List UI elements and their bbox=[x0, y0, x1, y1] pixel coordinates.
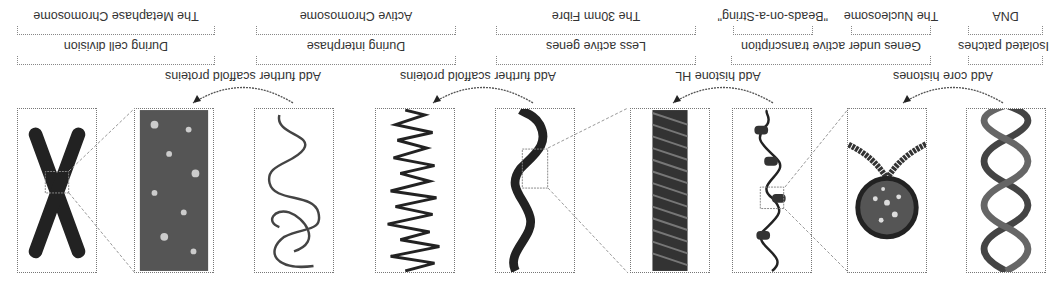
panel-nucleosome bbox=[847, 108, 927, 273]
panel-dna bbox=[966, 108, 1046, 273]
dna-double-helix-icon bbox=[967, 109, 1045, 272]
occurrence-cell-division: During cell division bbox=[17, 39, 215, 53]
panel-metaphase-chromosome bbox=[17, 108, 97, 273]
bracket-active bbox=[256, 26, 456, 35]
bracket-isolated bbox=[968, 56, 1043, 65]
x-chromosome-icon bbox=[18, 109, 96, 272]
nucleosome-icon bbox=[848, 109, 926, 272]
name-dna: DNA bbox=[968, 9, 1043, 23]
bracket-interphase bbox=[256, 56, 456, 65]
step-label-histone-hl: Add histone HL bbox=[663, 69, 773, 83]
occurrence-transcription: Genes under active transcription bbox=[731, 39, 931, 53]
beads-on-string-icon bbox=[733, 109, 811, 272]
step-label-scaffold-2: Add further scaffold proteins bbox=[158, 69, 328, 83]
panel-beads-on-a-string bbox=[732, 108, 812, 273]
panel-active-chromosome-loops bbox=[254, 108, 334, 273]
looped-chromatin-icon bbox=[255, 109, 333, 272]
name-beads: "Beads-on-a-String" bbox=[718, 9, 828, 23]
step-label-scaffold-1: Add further scaffold proteins bbox=[393, 69, 563, 83]
panel-metaphase-zoom bbox=[134, 108, 214, 273]
occurrence-less-active: Less active genes bbox=[496, 39, 696, 53]
bracket-beads bbox=[733, 26, 813, 35]
panel-active-chromosome-zigzag bbox=[375, 108, 455, 273]
name-active: Active Chromosome bbox=[256, 9, 456, 23]
occurrence-interphase: During interphase bbox=[256, 39, 456, 53]
zigzag-chromatin-icon bbox=[376, 109, 454, 272]
name-nucleosome: The Nucleosome bbox=[841, 9, 941, 23]
bracket-transcription bbox=[731, 56, 931, 65]
chromatin-packaging-figure: Add core histones Add histone HL Add fur… bbox=[0, 0, 1063, 297]
condensed-chromatin-icon bbox=[135, 109, 213, 272]
step-label-core-histones: Add core histones bbox=[878, 69, 1008, 83]
bracket-nucleosome bbox=[851, 26, 931, 35]
bracket-metaphase bbox=[17, 26, 215, 35]
coiled-fibre-icon bbox=[496, 109, 574, 272]
bracket-dna bbox=[968, 26, 1043, 35]
name-metaphase: The Metaphase Chromosome bbox=[17, 9, 215, 23]
occurrence-isolated: Isolated patches bbox=[956, 39, 1051, 53]
panel-30nm-fibre bbox=[495, 108, 575, 273]
name-fibre: The 30nm Fibre bbox=[496, 9, 696, 23]
bracket-fibre bbox=[496, 26, 696, 35]
solenoid-fibre-icon bbox=[631, 109, 709, 272]
bracket-cell-division bbox=[17, 56, 215, 65]
panel-30nm-fibre-zoom bbox=[630, 108, 710, 273]
bracket-less-active bbox=[496, 56, 696, 65]
